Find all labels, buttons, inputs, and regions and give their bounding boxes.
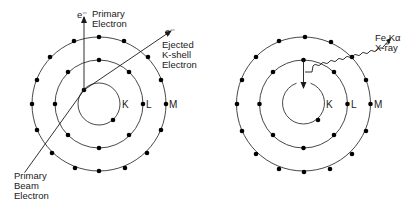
m-shell-label: M — [374, 99, 382, 110]
k-shell-electrons — [82, 88, 116, 123]
primary-electron-symbol: e⁻ — [77, 9, 87, 20]
ejected-electron-label-3: Electron — [162, 59, 197, 70]
l-shell-label: L — [146, 99, 152, 110]
x-ray-generation-diagram: K L M e⁻ Primary Electron e⁻ Ejected K-s… — [0, 0, 408, 208]
primary-beam-label-3: Electron — [14, 190, 49, 201]
k-shell-label: K — [122, 99, 129, 110]
k-shell-label: K — [326, 99, 333, 110]
atom-right-relaxation: K L M Fe Kα X-ray — [235, 32, 401, 174]
x-ray-label-2: X-ray — [375, 42, 398, 53]
l-shell-label: L — [351, 99, 357, 110]
m-shell-label: M — [169, 99, 177, 110]
k-shell-electrons — [316, 118, 321, 123]
primary-electron-label-2: Electron — [92, 18, 127, 29]
ejected-electron-symbol: e⁻ — [165, 26, 175, 37]
atom-left-ionization: K L M e⁻ Primary Electron e⁻ Ejected K-s… — [14, 8, 197, 201]
l-shell-electrons — [53, 58, 146, 151]
